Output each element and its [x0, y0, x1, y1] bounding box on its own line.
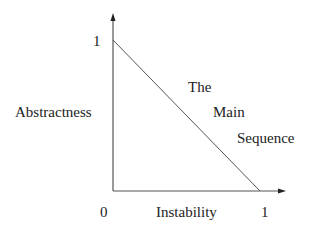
line-label-main: Main	[213, 104, 245, 120]
x-tick-min-label: 0	[100, 204, 108, 220]
x-axis-arrowhead-icon	[278, 189, 286, 194]
y-tick-max-label: 1	[93, 33, 101, 49]
x-tick-max-label: 1	[261, 204, 269, 220]
y-axis-label: Abstractness	[15, 104, 92, 120]
line-label-the: The	[188, 79, 211, 95]
line-label-sequence: Sequence	[237, 130, 294, 146]
x-axis-label: Instability	[156, 204, 217, 220]
main-sequence-diagram: 1 Abstractness The Main Sequence 0 Insta…	[0, 0, 309, 232]
y-axis-arrowhead-icon	[111, 13, 116, 21]
